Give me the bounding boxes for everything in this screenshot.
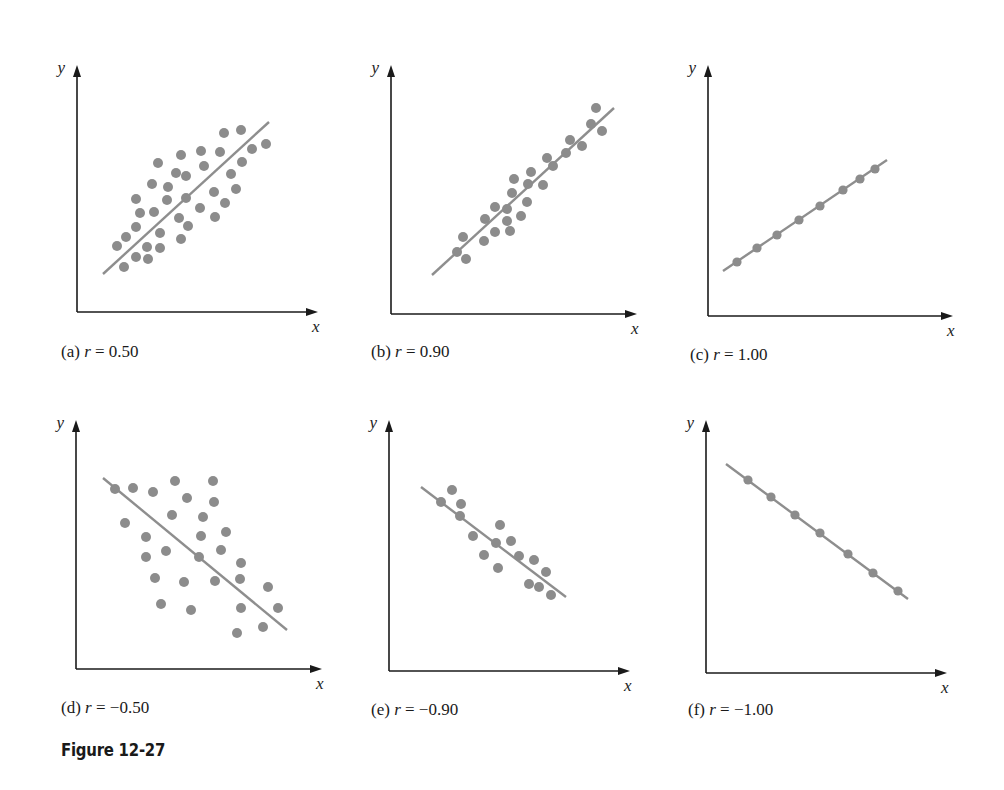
- caption-a-prefix: (a): [61, 342, 80, 361]
- x-axis-arrow-icon: [935, 669, 947, 677]
- data-point: [179, 577, 189, 587]
- x-axis-arrow-icon: [306, 308, 318, 316]
- caption-c-r: r: [713, 345, 720, 364]
- data-point: [153, 158, 163, 168]
- caption-a-r: r: [84, 342, 91, 361]
- data-point: [548, 161, 558, 171]
- data-point: [120, 518, 130, 528]
- data-point: [236, 125, 246, 135]
- data-point: [142, 242, 152, 252]
- data-point: [195, 203, 205, 213]
- caption-c: (c) r = 1.00: [690, 345, 768, 365]
- data-point: [112, 241, 122, 251]
- data-point: [176, 150, 186, 160]
- data-point: [221, 527, 231, 537]
- data-point: [186, 605, 196, 615]
- data-point: [131, 222, 141, 232]
- data-point: [226, 169, 236, 179]
- data-point: [220, 198, 230, 208]
- x-axis-arrow-icon: [310, 665, 322, 673]
- y-axis-arrow-icon: [702, 420, 710, 432]
- data-point: [461, 254, 471, 264]
- y-axis-arrow-icon: [73, 65, 81, 77]
- caption-e-value: −0.90: [419, 700, 458, 719]
- data-point: [236, 603, 246, 613]
- caption-c-value: 1.00: [738, 345, 768, 364]
- data-point: [591, 103, 601, 113]
- data-point: [209, 497, 219, 507]
- y-axis-label: y: [686, 58, 696, 77]
- data-point: [149, 207, 159, 217]
- data-point: [181, 171, 191, 181]
- data-point: [815, 201, 824, 210]
- data-point: [514, 551, 524, 561]
- data-point: [490, 202, 500, 212]
- data-point: [147, 179, 157, 189]
- data-point: [506, 536, 516, 546]
- data-point: [273, 603, 283, 613]
- data-point: [447, 485, 457, 495]
- data-point: [143, 254, 153, 264]
- scatter-panel-b: yx: [369, 58, 639, 338]
- data-point: [236, 558, 246, 568]
- data-point: [155, 243, 165, 253]
- data-point: [516, 211, 526, 221]
- figure-title: Figure 12-27: [61, 740, 165, 760]
- data-point: [131, 252, 141, 262]
- caption-e-r: r: [394, 700, 401, 719]
- data-point: [148, 487, 158, 497]
- data-point: [110, 484, 120, 494]
- data-point: [523, 179, 533, 189]
- caption-d: (d) r = −0.50: [61, 698, 149, 718]
- data-point: [194, 552, 204, 562]
- caption-c-prefix: (c): [690, 345, 709, 364]
- data-point: [155, 228, 165, 238]
- x-axis-arrow-icon: [625, 310, 637, 318]
- caption-f-value: −1.00: [734, 700, 773, 719]
- data-point: [529, 555, 539, 565]
- data-point: [141, 552, 151, 562]
- data-point: [452, 247, 462, 257]
- data-point: [141, 532, 151, 542]
- data-point: [455, 511, 465, 521]
- data-point: [565, 135, 575, 145]
- data-point: [196, 146, 206, 156]
- data-point: [121, 232, 131, 242]
- data-point: [176, 234, 186, 244]
- data-point: [163, 182, 173, 192]
- data-point: [586, 119, 596, 129]
- y-axis-arrow-icon: [385, 420, 393, 432]
- data-point: [215, 147, 225, 157]
- data-point: [815, 528, 824, 537]
- caption-f: (f) r = −1.00: [688, 700, 773, 720]
- data-point: [493, 563, 503, 573]
- data-point: [436, 497, 446, 507]
- y-axis-label: y: [367, 413, 377, 432]
- data-point: [732, 257, 741, 266]
- data-point: [502, 204, 512, 214]
- data-point: [868, 568, 877, 577]
- data-point: [119, 262, 129, 272]
- data-point: [524, 579, 534, 589]
- data-point: [219, 128, 229, 138]
- data-point: [167, 510, 177, 520]
- scatter-panel-a: yx: [55, 58, 320, 336]
- scatter-panel-e: yx: [367, 413, 632, 695]
- data-point: [502, 216, 512, 226]
- data-point: [199, 161, 209, 171]
- data-point: [577, 141, 587, 151]
- data-point: [468, 531, 478, 541]
- data-point: [743, 475, 752, 484]
- caption-e-prefix: (e): [371, 700, 390, 719]
- data-point: [232, 628, 242, 638]
- data-point: [162, 195, 172, 205]
- data-point: [542, 153, 552, 163]
- caption-e: (e) r = −0.90: [371, 700, 458, 720]
- caption-b-r: r: [395, 342, 402, 361]
- data-point: [772, 230, 781, 239]
- data-point: [131, 194, 141, 204]
- data-point: [838, 185, 847, 194]
- data-point: [209, 187, 219, 197]
- data-point: [458, 232, 468, 242]
- scatter-panel-f: yx: [684, 413, 949, 697]
